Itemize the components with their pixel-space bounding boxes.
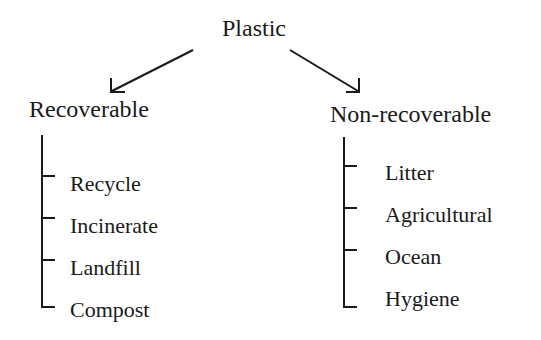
- arrow-to-non-recoverable: [290, 50, 359, 92]
- leaf-litter: Litter: [385, 162, 434, 184]
- non-recoverable-bracket: [343, 137, 357, 308]
- branch-recoverable: Recoverable: [29, 97, 149, 121]
- leaf-compost: Compost: [70, 299, 149, 321]
- leaf-hygiene: Hygiene: [385, 288, 460, 310]
- connector-lines: [0, 0, 541, 340]
- leaf-agricultural: Agricultural: [385, 204, 493, 226]
- branch-non-recoverable: Non-recoverable: [330, 102, 491, 126]
- root-node-plastic: Plastic: [222, 16, 286, 40]
- leaf-landfill: Landfill: [70, 257, 141, 279]
- recoverable-bracket: [41, 135, 55, 308]
- leaf-recycle: Recycle: [70, 173, 141, 195]
- arrow-to-recoverable: [111, 50, 193, 92]
- leaf-incinerate: Incinerate: [70, 215, 158, 237]
- leaf-ocean: Ocean: [385, 246, 441, 268]
